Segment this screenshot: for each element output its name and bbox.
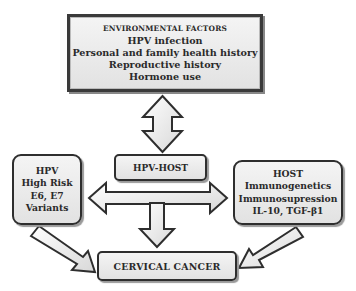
host-line-cytokines: IL-10, TGF-β1 [253, 205, 324, 218]
cervical-cancer-box: CERVICAL CANCER [97, 251, 237, 281]
hpv-host-box: HPV-HOST [114, 154, 207, 181]
down-arrow-icon [140, 203, 174, 247]
hpv-line-risk: High Risk [21, 177, 72, 190]
cervical-cancer-label: CERVICAL CANCER [113, 261, 220, 272]
diagonal-arrow-right-icon [239, 227, 303, 268]
host-box: HOST Immunogenetics Immunosupression IL-… [233, 160, 343, 225]
hpv-box: HPV High Risk E6, E7 Variants [12, 154, 82, 225]
environmental-factors-heading: ENVIRONMENTAL FACTORS [103, 24, 227, 33]
environmental-factors-box: ENVIRONMENTAL FACTORS HPV infection Pers… [67, 14, 263, 92]
host-line-title: HOST [273, 168, 303, 181]
vertical-double-arrow-icon [143, 96, 182, 152]
hpv-line-oncogenes: E6, E7 [30, 190, 63, 203]
hpv-line-title: HPV [36, 165, 59, 178]
diagonal-arrow-left-icon [31, 226, 95, 272]
factor-reproductive-history: Reproductive history [109, 59, 221, 71]
hpv-line-variants: Variants [26, 202, 69, 215]
host-line-immunosupression: Immunosupression [239, 193, 338, 206]
factor-hpv-infection: HPV infection [127, 35, 202, 47]
factor-hormone-use: Hormone use [129, 71, 201, 83]
factor-health-history: Personal and family health history [72, 47, 257, 59]
hpv-host-label: HPV-HOST [133, 163, 188, 173]
host-line-immunogenetics: Immunogenetics [245, 180, 332, 193]
